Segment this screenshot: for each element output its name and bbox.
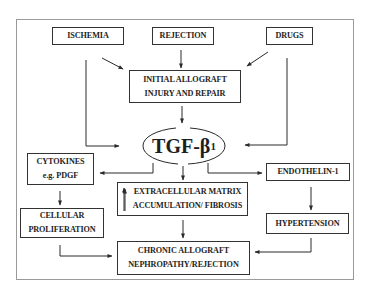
initial-injury-line-2: INJURY AND REPAIR (145, 87, 226, 101)
chronic-box: CHRONIC ALLOGRAFT NEPHROPATHY/REJECTION (117, 241, 250, 275)
hypertension-label: HYPERTENSION (275, 217, 339, 231)
ischemia-box: ISCHEMIA (52, 27, 124, 45)
tgf-beta1-node: TGF-β1 (141, 128, 227, 164)
chronic-line-1: CHRONIC ALLOGRAFT (138, 244, 229, 258)
proliferation-line-1: CELLULAR (40, 209, 85, 223)
cytokines-box: CYTOKINES e.g. PDGF (27, 153, 94, 185)
proliferation-box: CELLULAR PROLIFERATION (20, 208, 104, 238)
tgf-subscript: 1 (210, 140, 216, 152)
endothelin-label: ENDOTHELIN-1 (277, 165, 338, 179)
rejection-label: REJECTION (160, 29, 207, 43)
endothelin-box: ENDOTHELIN-1 (266, 163, 350, 181)
proliferation-line-2: PROLIFERATION (28, 223, 95, 237)
cytokines-line-1: CYTOKINES (36, 155, 84, 169)
rejection-box: REJECTION (152, 27, 214, 45)
ischemia-label: ISCHEMIA (67, 29, 109, 43)
cytokines-line-2: e.g. PDGF (43, 169, 78, 183)
hypertension-box: HYPERTENSION (266, 213, 349, 234)
initial-injury-box: INITIAL ALLOGRAFT INJURY AND REPAIR (129, 70, 241, 103)
ecm-line-1: EXTRACELLULAR MATRIX (134, 185, 242, 199)
ecm-box: EXTRACELLULAR MATRIX ACCUMULATION/ FIBRO… (117, 182, 248, 216)
initial-injury-line-1: INITIAL ALLOGRAFT (143, 73, 227, 87)
chronic-line-2: NEPHROPATHY/REJECTION (128, 258, 238, 272)
drugs-label: DRUGS (275, 29, 303, 43)
ecm-line-2: ACCUMULATION/ FIBROSIS (133, 199, 242, 213)
tgf-label: TGF-β (152, 135, 210, 158)
drugs-box: DRUGS (266, 27, 313, 45)
